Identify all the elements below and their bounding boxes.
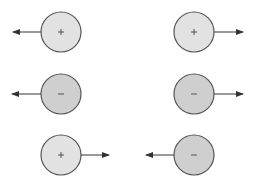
particle-positive: [41, 135, 109, 175]
particle-negative: [146, 135, 214, 175]
particle-negative: [174, 74, 243, 114]
charged-particles-diagram: [0, 0, 253, 183]
particle-positive: [13, 12, 81, 52]
particle-negative: [12, 74, 81, 114]
diagram-canvas: [0, 0, 253, 183]
particle-positive: [174, 12, 243, 52]
